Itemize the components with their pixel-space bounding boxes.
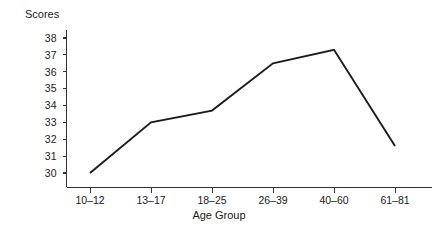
line-chart: Scores 303132333435363738 10–1213–1718–2… — [0, 0, 439, 241]
y-axis-tick-label: 31 — [45, 150, 57, 162]
chart-canvas: Scores 303132333435363738 10–1213–1718–2… — [0, 0, 439, 241]
x-axis-tick-label: 40–60 — [319, 194, 348, 206]
y-axis-tick-label: 33 — [45, 116, 57, 128]
x-axis-tick-label: 26–39 — [258, 194, 287, 206]
y-axis-tick-label: 38 — [45, 32, 57, 44]
x-axis-tick-label: 61–81 — [380, 194, 409, 206]
x-axis-tick-label: 13–17 — [136, 194, 165, 206]
x-axis-title: Age Group — [192, 209, 245, 221]
y-axis-tick-label: 34 — [45, 99, 57, 111]
y-axis-tick-label: 35 — [45, 82, 57, 94]
x-axis-tick-label: 10–12 — [75, 194, 104, 206]
y-axis-tick-label: 30 — [45, 167, 57, 179]
y-axis-tick-label: 36 — [45, 66, 57, 78]
x-axis-tick-label: 18–25 — [197, 194, 226, 206]
y-axis-title: Scores — [25, 8, 60, 20]
y-axis-tick-label: 37 — [45, 49, 57, 61]
y-axis-tick-label: 32 — [45, 133, 57, 145]
y-axis-tick-labels: 303132333435363738 — [45, 32, 57, 179]
